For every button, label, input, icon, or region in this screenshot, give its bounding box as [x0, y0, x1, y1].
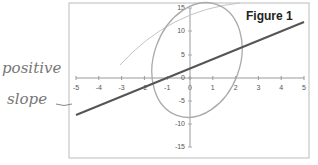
plot-frame: [69, 3, 309, 158]
svg-text:1: 1: [211, 84, 215, 91]
chart: -5 -4 -3 -2 -1 0 1 2 3 4 5 15 10 5 0 -5 …: [0, 0, 318, 165]
svg-text:-15: -15: [175, 143, 185, 150]
chart-title: Figure 1: [246, 9, 293, 23]
svg-text:-5: -5: [73, 84, 79, 91]
svg-text:3: 3: [256, 84, 260, 91]
handwritten-slope: slope: [7, 90, 47, 108]
svg-text:-3: -3: [118, 84, 124, 91]
svg-text:-5: -5: [179, 97, 185, 104]
svg-text:-10: -10: [175, 120, 185, 127]
svg-text:0: 0: [181, 74, 185, 81]
svg-text:5: 5: [302, 84, 306, 91]
svg-text:4: 4: [279, 84, 283, 91]
svg-text:-1: -1: [164, 84, 170, 91]
svg-text:2: 2: [234, 84, 238, 91]
svg-text:-4: -4: [96, 84, 102, 91]
svg-text:5: 5: [181, 51, 185, 58]
handwritten-positive: positive: [2, 59, 61, 77]
svg-text:10: 10: [177, 27, 185, 34]
